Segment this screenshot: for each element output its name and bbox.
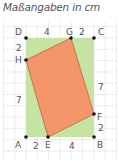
measure-ae: 2 (33, 141, 39, 151)
label-e: E (45, 140, 51, 150)
measure-eb: 4 (69, 141, 75, 151)
measure-bf: 2 (98, 123, 104, 133)
label-d: D (15, 27, 22, 37)
label-f: F (97, 112, 102, 122)
label-b: B (97, 140, 103, 150)
measure-gc: 2 (79, 27, 85, 37)
label-h: H (15, 55, 22, 65)
point-f (92, 112, 96, 116)
point-a (24, 135, 28, 139)
point-e (46, 135, 50, 139)
measure-dh: 2 (16, 43, 22, 53)
measure-fc: 7 (98, 82, 104, 92)
point-b (92, 135, 96, 139)
label-c: C (98, 27, 104, 37)
measure-ha: 7 (16, 95, 22, 105)
label-g: G (66, 27, 73, 37)
point-c (92, 36, 96, 40)
measure-dg: 4 (44, 27, 50, 37)
point-h (24, 58, 28, 62)
label-a: A (15, 140, 22, 150)
geometry-diagram: D G C H F A E B 4 2 2 7 2 4 2 7 (0, 0, 119, 161)
point-d (24, 36, 28, 40)
